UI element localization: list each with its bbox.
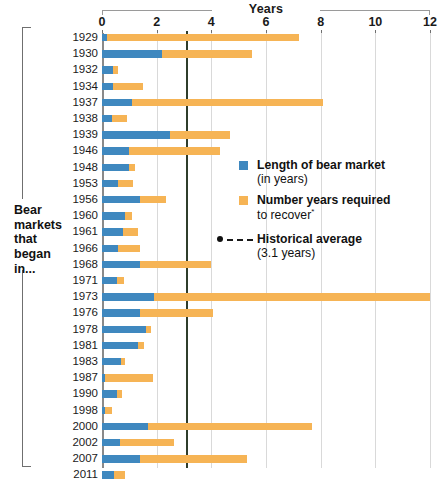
bar-orange-1990 [117, 390, 122, 397]
bar-orange-1968 [140, 261, 211, 268]
bar-blue-1976 [102, 309, 140, 316]
category-label-text: 1937 [50, 97, 98, 109]
category-label-text: 1968 [50, 259, 98, 271]
bar-orange-1966 [118, 245, 140, 252]
category-label-1968: 1968 [50, 259, 98, 271]
bar-orange-1946 [129, 147, 219, 154]
category-label-1966: 1966 [50, 243, 98, 255]
bar-blue-1990 [102, 390, 117, 397]
bar-blue-2007 [102, 455, 140, 462]
legend-average-dot-icon [217, 236, 223, 242]
bar-orange-1978 [146, 326, 151, 333]
bracket-bottom-tip [22, 466, 31, 467]
x-tick-label-12: 12 [423, 15, 437, 29]
bar-blue-1981 [102, 342, 138, 349]
legend-average-line-2: (3.1 years) [257, 246, 439, 260]
bar-blue-1971 [102, 277, 117, 284]
category-label-text: 1966 [50, 243, 98, 255]
category-label-text: 1929 [50, 32, 98, 44]
bar-orange-1983 [121, 358, 125, 365]
category-label-1998: 1998 [50, 405, 98, 417]
legend-item-historical-average: Historical average (3.1 years) [239, 232, 439, 261]
bar-orange-1938 [112, 115, 127, 122]
category-label-2000: 2000 [50, 421, 98, 433]
bar-orange-1932 [113, 66, 118, 73]
bar-orange-1956 [140, 196, 166, 203]
bar-orange-1987 [105, 374, 153, 381]
bar-blue-1983 [102, 358, 121, 365]
category-label-text: 2002 [50, 437, 98, 449]
legend-footnote-marker: * [311, 207, 314, 216]
category-label-text: 1976 [50, 307, 98, 319]
bar-orange-1930 [162, 50, 252, 57]
category-label-1983: 1983 [50, 356, 98, 368]
bar-orange-1998 [105, 407, 112, 414]
bar-orange-2007 [140, 455, 247, 462]
legend-recovery-line-2: to recover* [257, 207, 439, 222]
bracket-lower-segment [22, 270, 23, 466]
category-label-text: 2011 [50, 469, 98, 481]
category-label-2011: 2011 [50, 469, 98, 481]
category-label-text: 1998 [50, 405, 98, 417]
category-label-1934: 1934 [50, 81, 98, 93]
category-label-text: 1990 [50, 388, 98, 400]
bar-blue-1937 [102, 99, 132, 106]
category-label-1939: 1939 [50, 129, 98, 141]
legend-average-line-1: Historical average [257, 232, 439, 246]
side-label-line-1: Bear [14, 203, 42, 217]
bar-blue-1968 [102, 261, 140, 268]
bar-orange-1971 [117, 277, 124, 284]
category-label-1976: 1976 [50, 307, 98, 319]
category-label-text: 1946 [50, 145, 98, 157]
x-tick-label-8: 8 [317, 15, 324, 29]
bar-blue-1973 [102, 293, 154, 300]
side-label-line-5: in... [14, 262, 36, 276]
category-label-text: 2000 [50, 421, 98, 433]
bar-blue-1930 [102, 50, 162, 57]
category-label-1956: 1956 [50, 194, 98, 206]
historical-average-line [186, 31, 188, 468]
category-label-text: 1983 [50, 356, 98, 368]
category-label-1932: 1932 [50, 64, 98, 76]
category-label-text: 1938 [50, 113, 98, 125]
bar-blue-1966 [102, 245, 118, 252]
bar-blue-1960 [102, 212, 125, 219]
bar-orange-1973 [154, 293, 430, 300]
x-tick-label-10: 10 [368, 15, 382, 29]
category-label-text: 1981 [50, 340, 98, 352]
bar-blue-1939 [102, 131, 170, 138]
bar-orange-1953 [118, 180, 133, 187]
category-label-1953: 1953 [50, 178, 98, 190]
category-label-1971: 1971 [50, 275, 98, 287]
category-label-text: 1934 [50, 81, 98, 93]
category-label-1929: 1929 [50, 32, 98, 44]
category-label-text: 1971 [50, 275, 98, 287]
bar-orange-1976 [140, 309, 212, 316]
bracket-top-tip [22, 27, 31, 28]
x-tick-label-6: 6 [263, 15, 270, 29]
category-label-text: 1948 [50, 162, 98, 174]
bar-blue-2000 [102, 423, 148, 430]
category-label-text: 1932 [50, 64, 98, 76]
category-label-1961: 1961 [50, 226, 98, 238]
legend-swatch-orange-icon [239, 196, 248, 205]
category-label-text: 1956 [50, 194, 98, 206]
bar-orange-1961 [123, 228, 138, 235]
category-label-1973: 1973 [50, 291, 98, 303]
category-label-text: 1961 [50, 226, 98, 238]
bar-orange-1934 [113, 83, 143, 90]
bar-orange-1929 [107, 34, 298, 41]
legend-dashed-line-icon [227, 239, 253, 241]
category-label-text: 1973 [50, 291, 98, 303]
category-label-1948: 1948 [50, 162, 98, 174]
bar-blue-1961 [102, 228, 123, 235]
x-axis-title: Years [102, 2, 430, 16]
bar-blue-2011 [102, 471, 114, 478]
side-label-line-4: began [14, 247, 51, 261]
legend-bear-market-line-2: (in years) [257, 172, 439, 186]
legend-recovery-line-1: Number years required [257, 193, 439, 207]
legend-item-bear-market: Length of bear market (in years) [239, 158, 439, 187]
category-label-1990: 1990 [50, 388, 98, 400]
chart-legend: Length of bear market (in years) Number … [239, 158, 439, 266]
